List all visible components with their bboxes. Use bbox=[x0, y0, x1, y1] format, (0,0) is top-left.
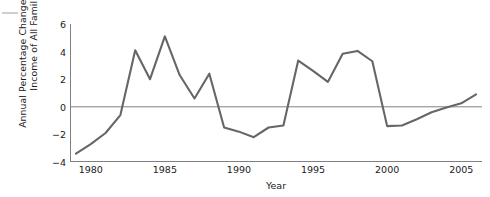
data-series-line bbox=[76, 36, 476, 153]
x-axis-tick-label: 2005 bbox=[449, 164, 473, 175]
x-axis-tick-label: 1990 bbox=[227, 164, 251, 175]
y-axis-tick-label: 0 bbox=[44, 101, 66, 112]
chart-figure: Annual Percentage Change in Median Incom… bbox=[0, 0, 490, 197]
y-axis-tick-label: 4 bbox=[44, 46, 66, 57]
x-axis-tick-label: 1980 bbox=[79, 164, 103, 175]
x-axis-tick-label: 2000 bbox=[375, 164, 399, 175]
y-axis-title-line1: Annual Percentage Change in Median bbox=[17, 0, 29, 128]
y-axis-tick-label: 6 bbox=[44, 19, 66, 30]
y-axis-tick-label: −2 bbox=[44, 129, 66, 140]
plot-area bbox=[70, 24, 482, 162]
x-axis-tick-label: 1985 bbox=[153, 164, 177, 175]
chart-svg bbox=[70, 24, 482, 162]
y-axis-tick-label: −4 bbox=[44, 157, 66, 168]
y-axis-tick-labels: 6420−2−4 bbox=[40, 24, 66, 162]
y-axis-title-line2: Income of All Families bbox=[28, 0, 40, 128]
x-axis-title: Year bbox=[70, 180, 482, 191]
x-axis-tick-labels: 198019851990199520002005 bbox=[70, 164, 482, 178]
y-axis-tick-label: 2 bbox=[44, 74, 66, 85]
x-axis-tick-label: 1995 bbox=[301, 164, 325, 175]
